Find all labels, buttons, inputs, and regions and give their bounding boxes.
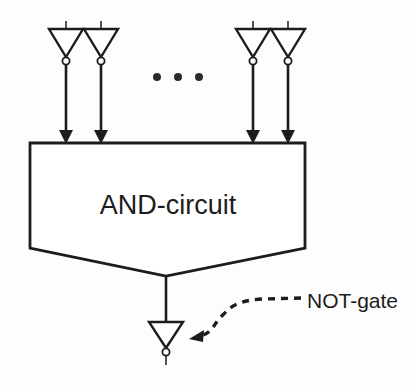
not-gate-input-3-bubble [249,57,256,64]
circuit-diagram: AND-circuit NOT-gate [0,0,414,386]
input-wire-2 [94,65,108,144]
not-gate-input-3 [236,21,270,65]
not-gate-input-2-bubble [97,57,104,64]
not-gate-input-2-triangle [84,29,118,57]
ellipsis-dots [153,73,203,81]
not-gate-input-1 [49,21,83,65]
not-gate-input-2 [84,21,118,65]
not-gate-input-1-bubble [62,57,69,64]
input-wire-1 [59,65,73,144]
not-gate-input-4 [271,21,305,65]
and-circuit-label: AND-circuit [100,190,237,220]
ellipsis-dot-1 [153,73,161,81]
not-gate-input-1-triangle [49,29,83,57]
input-wire-4 [281,65,295,144]
not-gate-input-4-triangle [271,29,305,57]
not-gate-output-bubble [162,348,169,355]
callout-label-not-gate: NOT-gate [307,289,398,312]
not-gate-input-3-triangle [236,29,270,57]
callout-arrowhead [189,330,204,342]
not-gate-input-4-bubble [284,57,291,64]
input-wire-3 [246,65,260,144]
ellipsis-dot-2 [174,73,182,81]
callout-arrow-group [189,298,301,342]
not-gate-output [149,322,183,365]
circuit-canvas: AND-circuit NOT-gate [0,0,414,386]
ellipsis-dot-3 [195,73,203,81]
not-gate-output-triangle [149,322,183,348]
callout-dashed-path [200,298,301,336]
